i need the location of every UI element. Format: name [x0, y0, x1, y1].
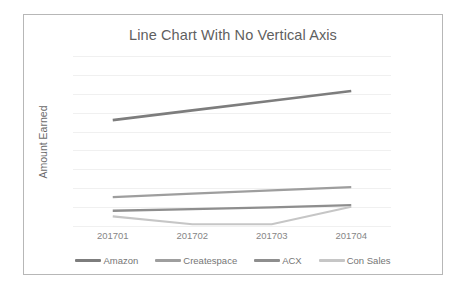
x-axis-tick-label: 201702 [152, 230, 232, 241]
series-line [113, 205, 352, 211]
chart-title: Line Chart With No Vertical Axis [24, 27, 442, 43]
chart-container: Line Chart With No Vertical Axis Amount … [23, 14, 443, 275]
legend-label: Amazon [103, 255, 138, 266]
legend-line-swatch [155, 259, 181, 261]
y-axis-title-label: Amount Earned [37, 106, 49, 179]
x-axis-tick-label: 201704 [311, 230, 391, 241]
legend-item[interactable]: Con Sales [319, 255, 391, 266]
legend-label: Createspace [183, 255, 237, 266]
series-line [113, 91, 352, 120]
plot-area [73, 56, 391, 227]
x-axis-labels: 201701201702201703201704 [73, 230, 391, 246]
legend-line-swatch [75, 259, 101, 262]
legend-label: Con Sales [347, 255, 391, 266]
legend-item[interactable]: Amazon [75, 255, 138, 266]
series-lines [73, 56, 391, 227]
y-axis-title: Amount Earned [32, 77, 54, 207]
legend-line-swatch [319, 259, 345, 261]
x-axis-tick-label: 201701 [73, 230, 153, 241]
series-line [113, 187, 352, 197]
legend-item[interactable]: ACX [254, 255, 302, 266]
legend-line-swatch [254, 259, 280, 261]
legend-item[interactable]: Createspace [155, 255, 237, 266]
x-axis-tick-label: 201703 [232, 230, 312, 241]
chart-legend: AmazonCreatespaceACXCon Sales [24, 255, 442, 266]
legend-label: ACX [282, 255, 302, 266]
